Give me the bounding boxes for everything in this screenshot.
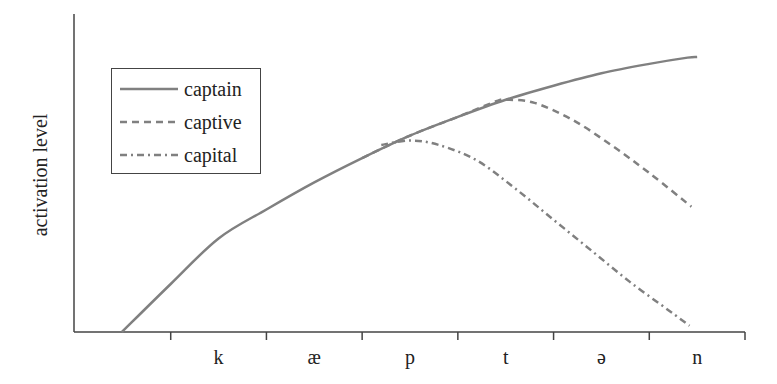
dashed-line-swatch-icon [120, 119, 178, 125]
x-label-schwa: ə [597, 346, 606, 369]
x-ticks [171, 332, 745, 340]
series-captive [362, 99, 691, 206]
x-label-k: k [214, 346, 224, 369]
legend: captain captive capital [111, 68, 261, 174]
chart-canvas [0, 0, 777, 384]
legend-item-capital: capital [120, 143, 237, 167]
legend-item-captain: captain [120, 77, 242, 101]
x-label-ae: æ [308, 346, 321, 369]
axes [74, 14, 745, 340]
x-label-n: n [692, 346, 702, 369]
legend-label: captain [184, 78, 242, 101]
dash-dot-line-swatch-icon [120, 152, 178, 158]
solid-line-swatch-icon [120, 86, 178, 92]
x-label-t: t [503, 346, 509, 369]
x-label-p: p [405, 346, 415, 369]
legend-label: captive [184, 111, 242, 134]
y-axis-label: activation level [29, 114, 52, 237]
legend-label: capital [184, 144, 237, 167]
legend-item-captive: captive [120, 110, 242, 134]
